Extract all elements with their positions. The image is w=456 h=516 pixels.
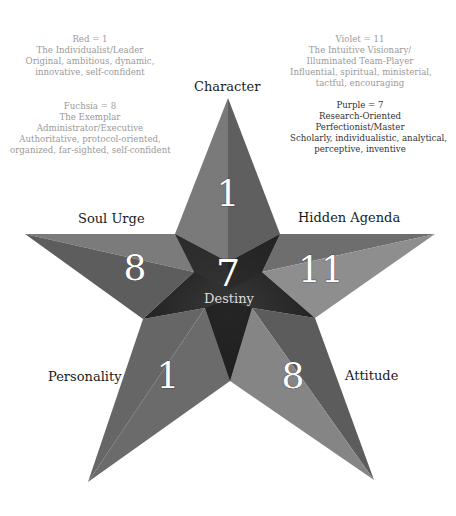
legend-red-line: innovative, self-confident <box>20 67 160 78</box>
legend-red-line: The Individualist/Leader <box>20 45 160 56</box>
legend-violet-line: Influential, spiritual, ministerial, <box>290 67 430 78</box>
hidden-agenda-value: 11 <box>298 249 344 290</box>
legend-violet-line: The Intuitive Visionary/ <box>290 45 430 56</box>
legend-purple-line: perceptive, inventive <box>290 144 430 155</box>
legend-fuchsia-line: Authoritative, protocol-oriented, <box>10 134 170 145</box>
soul-urge-value: 8 <box>124 247 147 288</box>
label-hidden-agenda: Hidden Agenda <box>298 210 400 225</box>
legend-purple-line: Research-Oriented <box>290 111 430 122</box>
legend-violet-line: tactful, encouraging <box>290 78 430 89</box>
label-personality: Personality <box>48 369 122 384</box>
destiny-value: 7 <box>216 251 240 295</box>
label-character: Character <box>194 79 260 94</box>
legend-violet: Violet = 11 The Intuitive Visionary/ Ill… <box>290 34 430 89</box>
personality-value: 1 <box>157 355 180 396</box>
label-attitude: Attitude <box>345 368 398 383</box>
legend-fuchsia-title: Fuchsia = 8 <box>10 101 170 112</box>
legend-fuchsia-line: Administrator/Executive <box>10 123 170 134</box>
legend-fuchsia-line: organized, far-sighted, self-confident <box>10 145 170 156</box>
label-soul-urge: Soul Urge <box>78 211 145 226</box>
legend-purple-line: Perfectionist/Master <box>290 122 430 133</box>
legend-purple-title: Purple = 7 <box>290 100 430 111</box>
character-value: 1 <box>217 173 240 214</box>
legend-red-line: Original, ambitious, dynamic, <box>20 56 160 67</box>
legend-red-title: Red = 1 <box>20 34 160 45</box>
destiny-label: Destiny <box>204 291 255 306</box>
legend-red: Red = 1 The Individualist/Leader Origina… <box>20 34 160 78</box>
legend-violet-title: Violet = 11 <box>290 34 430 45</box>
legend-fuchsia-line: The Exemplar <box>10 112 170 123</box>
legend-purple: Purple = 7 Research-Oriented Perfectioni… <box>290 100 430 155</box>
legend-violet-line: Illuminated Team-Player <box>290 56 430 67</box>
attitude-value: 8 <box>282 355 305 396</box>
legend-purple-line: Scholarly, individualistic, analytical, <box>290 133 430 144</box>
legend-fuchsia: Fuchsia = 8 The Exemplar Administrator/E… <box>10 101 170 156</box>
